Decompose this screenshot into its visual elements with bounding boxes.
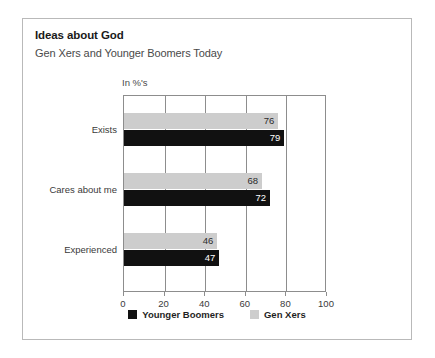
- axis-units-label: In %'s: [122, 77, 148, 88]
- x-tick-mark: [164, 292, 165, 296]
- bar-younger-boomers: 72: [124, 190, 270, 206]
- bar-gen-xers: 68: [124, 173, 262, 189]
- legend-item-gen-xers[interactable]: Gen Xers: [250, 309, 306, 320]
- x-tick-label: 100: [318, 298, 334, 309]
- bar-row: 72: [124, 190, 327, 206]
- bar-value-label: 76: [264, 116, 275, 126]
- category-label: Exists: [23, 124, 117, 135]
- x-tick-label: 60: [240, 298, 251, 309]
- bar-group: 4647: [124, 233, 325, 267]
- bar-younger-boomers: 47: [124, 250, 219, 266]
- category-label: Experienced: [23, 244, 117, 255]
- x-tick-label: 80: [280, 298, 291, 309]
- page-title: Ideas about God: [35, 29, 124, 41]
- x-tick-mark: [326, 292, 327, 296]
- category-label: Cares about me: [23, 184, 117, 195]
- legend-item-younger-boomers[interactable]: Younger Boomers: [128, 309, 224, 320]
- bar-value-label: 79: [270, 133, 281, 143]
- x-tick-mark: [285, 292, 286, 296]
- legend-label: Gen Xers: [264, 309, 306, 320]
- x-tick-label: 20: [158, 298, 169, 309]
- bar-row: 68: [124, 173, 327, 189]
- x-tick-label: 40: [199, 298, 210, 309]
- bar-gen-xers: 76: [124, 113, 278, 129]
- bar-row: 76: [124, 113, 327, 129]
- x-tick-label: 0: [120, 298, 125, 309]
- bar-value-label: 68: [247, 176, 258, 186]
- x-tick-mark: [204, 292, 205, 296]
- bar-gen-xers: 46: [124, 233, 217, 249]
- legend-swatch-icon: [250, 310, 259, 319]
- bar-value-label: 46: [203, 236, 214, 246]
- bar-value-label: 47: [205, 253, 216, 263]
- x-tick-mark: [123, 292, 124, 296]
- bar-row: 79: [124, 130, 327, 146]
- chart-legend: Younger BoomersGen Xers: [23, 309, 411, 320]
- legend-swatch-icon: [128, 310, 137, 319]
- bar-younger-boomers: 79: [124, 130, 284, 146]
- plot-area: 767968724647: [123, 95, 326, 292]
- bar-group: 7679: [124, 113, 325, 147]
- bar-row: 47: [124, 250, 327, 266]
- bar-group: 6872: [124, 173, 325, 207]
- bar-row: 46: [124, 233, 327, 249]
- legend-label: Younger Boomers: [142, 309, 224, 320]
- bar-value-label: 72: [256, 193, 267, 203]
- x-tick-mark: [245, 292, 246, 296]
- chart-figure: Ideas about God Gen Xers and Younger Boo…: [22, 18, 412, 340]
- chart-subtitle: Gen Xers and Younger Boomers Today: [35, 47, 222, 59]
